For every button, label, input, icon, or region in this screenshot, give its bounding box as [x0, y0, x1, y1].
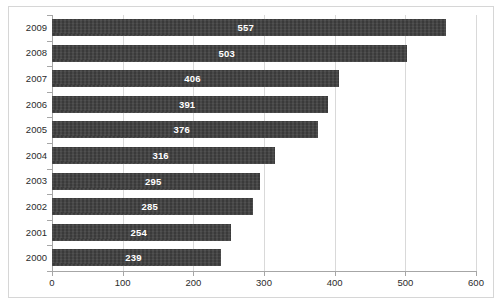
y-axis-label-2008: 2008 — [9, 47, 47, 58]
x-axis-label-0: 0 — [32, 277, 72, 288]
y-axis-label-2000: 2000 — [9, 252, 47, 263]
bar-value-label-2004: 316 — [141, 147, 181, 164]
y-tick-end — [47, 271, 52, 272]
y-tick-2009 — [47, 15, 52, 16]
y-axis-label-2001: 2001 — [9, 227, 47, 238]
y-tick-2007 — [47, 66, 52, 67]
bar-row: 406 — [52, 66, 476, 92]
y-tick-2001 — [47, 220, 52, 221]
bar-row: 254 — [52, 220, 476, 246]
bar-value-label-2007: 406 — [172, 70, 212, 87]
bar-value-label-2003: 295 — [133, 173, 173, 190]
bar-row: 316 — [52, 143, 476, 169]
bar-value-label-2002: 285 — [130, 198, 170, 215]
y-tick-2005 — [47, 117, 52, 118]
bar-value-label-2000: 239 — [113, 249, 153, 266]
x-tick-300 — [264, 272, 265, 276]
gridline-600 — [476, 15, 477, 271]
bar-row: 391 — [52, 92, 476, 118]
x-axis-label-500: 500 — [385, 277, 425, 288]
y-axis-label-2002: 2002 — [9, 201, 47, 212]
x-axis-label-100: 100 — [103, 277, 143, 288]
y-tick-2006 — [47, 92, 52, 93]
y-tick-2002 — [47, 194, 52, 195]
x-axis-label-400: 400 — [315, 277, 355, 288]
y-axis-label-2003: 2003 — [9, 175, 47, 186]
y-tick-2003 — [47, 169, 52, 170]
y-axis-label-2009: 2009 — [9, 22, 47, 33]
x-tick-400 — [335, 272, 336, 276]
bar-row: 503 — [52, 41, 476, 67]
bar-row: 376 — [52, 117, 476, 143]
y-tick-2008 — [47, 41, 52, 42]
y-axis-label-2007: 2007 — [9, 73, 47, 84]
y-tick-2004 — [47, 143, 52, 144]
x-tick-100 — [123, 272, 124, 276]
bar-value-label-2009: 557 — [226, 19, 266, 36]
bar-row: 285 — [52, 194, 476, 220]
bar-row: 295 — [52, 169, 476, 195]
bar-row: 557 — [52, 15, 476, 41]
chart-frame: 557503406391376316295285254239 200920082… — [8, 6, 494, 298]
bar-value-label-2005: 376 — [162, 121, 202, 138]
y-tick-2000 — [47, 245, 52, 246]
x-axis-label-300: 300 — [244, 277, 284, 288]
x-tick-200 — [193, 272, 194, 276]
bar-value-label-2006: 391 — [167, 96, 207, 113]
bar-value-label-2008: 503 — [207, 45, 247, 62]
x-tick-0 — [52, 272, 53, 276]
x-axis-label-600: 600 — [456, 277, 496, 288]
x-axis-label-200: 200 — [173, 277, 213, 288]
y-axis-label-2004: 2004 — [9, 150, 47, 161]
x-tick-600 — [476, 272, 477, 276]
x-tick-500 — [405, 272, 406, 276]
bar-row: 239 — [52, 245, 476, 271]
bar-value-label-2001: 254 — [119, 224, 159, 241]
y-axis-label-2005: 2005 — [9, 124, 47, 135]
y-axis-label-2006: 2006 — [9, 99, 47, 110]
